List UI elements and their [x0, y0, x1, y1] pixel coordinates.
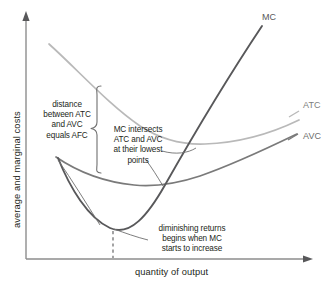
- mc-label: MC: [262, 12, 276, 22]
- diminishing-returns-annotation: diminishing returns begins when MC start…: [140, 224, 244, 255]
- x-axis-label: quantity of output: [135, 267, 208, 277]
- atc-label: ATC: [303, 100, 321, 110]
- cost-curve-figure: MC ATC AVC distance between ATC and AVC …: [0, 0, 336, 286]
- y-axis-arrowhead: [22, 11, 29, 21]
- avc-label: AVC: [303, 131, 321, 141]
- mc-intersects-annotation: MC intersects ATC and AVC at their lowes…: [103, 125, 173, 166]
- atc-label-leader: [289, 111, 299, 117]
- afc-distance-annotation: distance between ATC and AVC equals AFC: [36, 100, 98, 141]
- y-axis-label: average and marginal costs: [12, 111, 22, 228]
- x-axis-arrowhead: [303, 255, 313, 262]
